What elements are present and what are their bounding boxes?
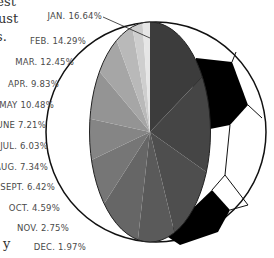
label-jan: JAN. 16.64% <box>47 11 102 21</box>
text-fragment: gest <box>0 0 16 9</box>
label-aug: AUG. 7.34% <box>0 162 48 172</box>
label-june: JUNE 7.21% <box>0 120 46 130</box>
label-nov: NOV. 2.75% <box>17 223 69 233</box>
label-oct: OCT. 4.59% <box>9 203 60 213</box>
label-may: MAY 10.48% <box>0 100 54 110</box>
label-feb: FEB. 14.29% <box>30 36 86 46</box>
label-mar: MAR. 12.45% <box>15 57 74 67</box>
label-sept: SEPT. 6.42% <box>0 182 55 192</box>
text-fragment: y <box>3 236 10 251</box>
label-jul: JUL. 6.03% <box>0 141 48 151</box>
text-fragment: ust <box>0 11 18 26</box>
label-dec: DEC. 1.97% <box>34 242 86 252</box>
text-fragment: s. <box>0 29 7 44</box>
label-apr: APR. 9.83% <box>8 79 59 89</box>
